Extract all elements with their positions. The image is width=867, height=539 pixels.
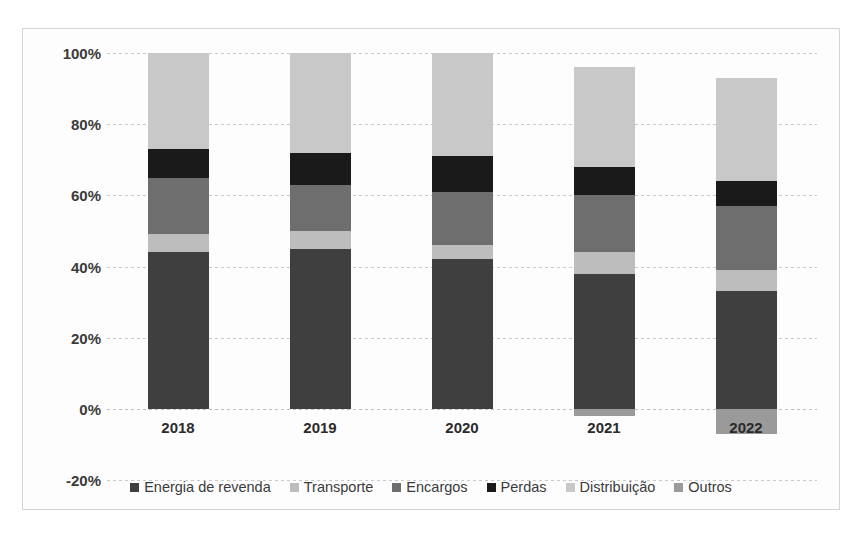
x-axis-label-2021: 2021 <box>552 419 657 436</box>
legend-swatch-icon <box>130 483 139 492</box>
bar-segment-energia-de-revenda[interactable] <box>148 252 209 409</box>
legend-label: Transporte <box>304 479 374 495</box>
legend-label: Distribuição <box>580 479 656 495</box>
legend-swatch-icon <box>487 483 496 492</box>
y-axis-tick-label: 80% <box>31 116 101 133</box>
x-axis-label-2022: 2022 <box>694 419 799 436</box>
legend-swatch-icon <box>392 483 401 492</box>
bar-segment-transporte[interactable] <box>432 245 493 259</box>
bar-segment-encargos[interactable] <box>148 178 209 235</box>
bar-group-2022[interactable]: 2022 <box>716 53 777 480</box>
x-axis-label-2019: 2019 <box>268 419 373 436</box>
legend-swatch-icon <box>566 483 575 492</box>
bar-segment-encargos[interactable] <box>716 206 777 270</box>
bar-segment-perdas[interactable] <box>148 149 209 177</box>
bar-segment-transporte[interactable] <box>574 252 635 273</box>
legend-item-energia-de-revenda[interactable]: Energia de revenda <box>130 479 271 495</box>
bar-segment-transporte[interactable] <box>148 234 209 252</box>
legend-item-encargos[interactable]: Encargos <box>392 479 467 495</box>
y-axis-tick-label: 60% <box>31 187 101 204</box>
bar-segment-distribuição[interactable] <box>432 53 493 156</box>
legend-label: Perdas <box>501 479 547 495</box>
legend-item-outros[interactable]: Outros <box>674 479 732 495</box>
legend-item-perdas[interactable]: Perdas <box>487 479 547 495</box>
bar-segment-perdas[interactable] <box>716 181 777 206</box>
bar-group-2021[interactable]: 2021 <box>574 53 635 480</box>
bar-segment-energia-de-revenda[interactable] <box>432 259 493 408</box>
chart-container: 100%80%60%40%20%0%-20%201820192020202120… <box>22 28 840 510</box>
bar-segment-encargos[interactable] <box>574 195 635 252</box>
legend-label: Energia de revenda <box>144 479 271 495</box>
y-axis-tick-label: 0% <box>31 400 101 417</box>
bar-segment-perdas[interactable] <box>574 167 635 195</box>
y-axis-tick-label: 40% <box>31 258 101 275</box>
bar-segment-distribuição[interactable] <box>716 78 777 181</box>
bar-segment-perdas[interactable] <box>290 153 351 185</box>
bar-segment-outros[interactable] <box>574 409 635 416</box>
bar-group-2019[interactable]: 2019 <box>290 53 351 480</box>
bar-segment-distribuição[interactable] <box>148 53 209 149</box>
bar-segment-distribuição[interactable] <box>574 67 635 167</box>
chart-legend: Energia de revendaTransporteEncargosPerd… <box>23 479 839 495</box>
bar-segment-transporte[interactable] <box>716 270 777 291</box>
bar-segment-encargos[interactable] <box>290 185 351 231</box>
legend-swatch-icon <box>674 483 683 492</box>
legend-swatch-icon <box>290 483 299 492</box>
y-axis-tick-label: 100% <box>31 45 101 62</box>
y-axis-tick-label: 20% <box>31 329 101 346</box>
legend-item-transporte[interactable]: Transporte <box>290 479 374 495</box>
x-axis-label-2018: 2018 <box>126 419 231 436</box>
bar-group-2020[interactable]: 2020 <box>432 53 493 480</box>
bar-segment-encargos[interactable] <box>432 192 493 245</box>
bar-group-2018[interactable]: 2018 <box>148 53 209 480</box>
bar-segment-distribuição[interactable] <box>290 53 351 153</box>
bar-segment-energia-de-revenda[interactable] <box>290 249 351 409</box>
x-axis-label-2020: 2020 <box>410 419 515 436</box>
bar-segment-energia-de-revenda[interactable] <box>574 274 635 409</box>
legend-label: Encargos <box>406 479 467 495</box>
legend-label: Outros <box>688 479 732 495</box>
plot-area: 100%80%60%40%20%0%-20%201820192020202120… <box>107 53 817 480</box>
bar-segment-energia-de-revenda[interactable] <box>716 291 777 408</box>
bar-segment-transporte[interactable] <box>290 231 351 249</box>
bar-segment-perdas[interactable] <box>432 156 493 192</box>
legend-item-distribuição[interactable]: Distribuição <box>566 479 656 495</box>
